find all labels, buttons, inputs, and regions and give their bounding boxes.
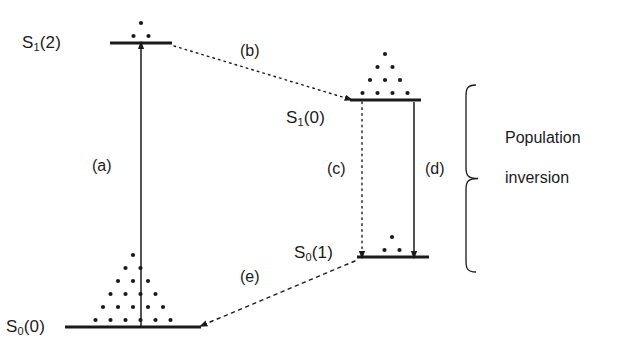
level-subscript: 0 [306, 251, 312, 263]
level-label-s1-2: S1(2) [22, 33, 61, 53]
level-quantum-number: (0) [304, 108, 325, 127]
population-dot-s0-0 [93, 318, 97, 322]
level-label-s0-0: S0(0) [6, 317, 45, 337]
level-symbol: S [6, 317, 18, 336]
population-dot-s0-0 [116, 305, 120, 309]
level-symbol: S [286, 108, 298, 127]
population-dot-s1-0 [383, 78, 387, 82]
level-subscript: 0 [18, 325, 24, 337]
transition-label-b: (b) [240, 42, 260, 60]
level-subscript: 1 [298, 116, 304, 128]
transition-label-a: (a) [92, 157, 112, 175]
transition-label-d: (d) [425, 160, 445, 178]
population-dot-s0-0 [146, 279, 150, 283]
population-dot-s1-2 [131, 34, 135, 38]
transition-label-e: (e) [240, 268, 260, 286]
brace-path [466, 85, 478, 272]
population-dot-s0-0 [123, 318, 127, 322]
population-dot-s0-0 [116, 279, 120, 283]
level-quantum-number: (2) [40, 33, 61, 52]
transition-arrow-b [174, 46, 349, 99]
population-inversion-label: Population inversion [505, 118, 581, 198]
level-label-s0-1: S0(1) [294, 243, 333, 263]
population-dot-s1-0 [398, 78, 402, 82]
population-dot-s0-1 [390, 235, 394, 239]
population-dot-s1-2 [146, 34, 150, 38]
energy-level-diagram: S1(2) S1(0) S0(1) S0(0) (a) (b) (c) (d) … [0, 0, 636, 356]
population-dot-s0-0 [108, 292, 112, 296]
population-dot-s0-0 [153, 292, 157, 296]
population-dot-s0-0 [131, 279, 135, 283]
population-dot-s0-0 [101, 305, 105, 309]
population-dot-s1-0 [375, 91, 379, 95]
population-dot-s1-0 [390, 91, 394, 95]
population-dot-s0-0 [161, 305, 165, 309]
population-dot-s0-1 [397, 248, 401, 252]
population-dot-s1-0 [405, 91, 409, 95]
population-dot-s1-2 [139, 21, 143, 25]
population-inversion-line1: Population [505, 118, 581, 158]
population-dot-s0-0 [146, 305, 150, 309]
level-symbol: S [294, 243, 306, 262]
population-dot-s0-0 [123, 292, 127, 296]
level-quantum-number: (0) [24, 317, 45, 336]
population-dot-s0-1 [382, 248, 386, 252]
population-dot-s0-0 [131, 305, 135, 309]
level-subscript: 1 [34, 41, 40, 53]
population-dot-s1-0 [360, 91, 364, 95]
population-dot-s1-0 [368, 78, 372, 82]
transition-arrows-group [141, 45, 414, 327]
level-symbol: S [22, 33, 34, 52]
population-dot-s1-0 [383, 52, 387, 56]
population-dot-s0-0 [108, 318, 112, 322]
population-dot-s0-0 [131, 253, 135, 257]
transition-arrow-e [203, 261, 355, 325]
population-inversion-line2: inversion [505, 158, 581, 198]
level-label-s1-0: S1(0) [286, 108, 325, 128]
transition-label-c: (c) [327, 160, 346, 178]
population-dot-s0-0 [168, 318, 172, 322]
population-dot-s0-0 [153, 318, 157, 322]
population-dot-s0-0 [123, 266, 127, 270]
population-dot-s1-0 [390, 65, 394, 69]
population-inversion-brace [466, 85, 478, 272]
population-dot-s1-0 [375, 65, 379, 69]
level-quantum-number: (1) [312, 243, 333, 262]
